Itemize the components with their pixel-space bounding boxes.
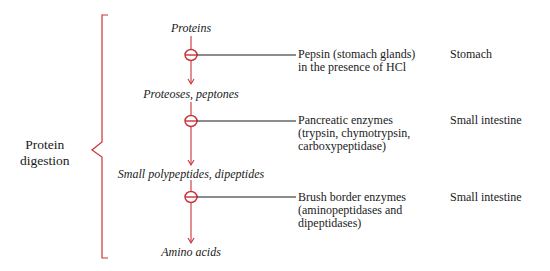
bracket-label-line: Protein bbox=[20, 137, 70, 153]
enzyme-pepsin: Pepsin (stomach glands) in the presence … bbox=[298, 48, 415, 74]
substrate-proteins: Proteins bbox=[171, 22, 211, 35]
enzyme-line: carboxypeptidase) bbox=[298, 140, 410, 153]
flow-arrows bbox=[188, 36, 194, 243]
substrate-proteoses: Proteoses, peptones bbox=[143, 88, 239, 101]
enzyme-line: in the presence of HCl bbox=[298, 61, 415, 74]
enzyme-brush-border: Brush border enzymes (aminopeptidases an… bbox=[298, 191, 406, 230]
substrate-polypeptides: Small polypeptides, dipeptides bbox=[118, 168, 264, 181]
enzyme-line: dipeptidases) bbox=[298, 217, 406, 230]
bracket bbox=[92, 15, 108, 258]
diagram-lines bbox=[0, 0, 550, 271]
substrate-amino-acids: Amino acids bbox=[161, 246, 221, 259]
site-small-intestine-2: Small intestine bbox=[450, 191, 522, 204]
site-small-intestine-1: Small intestine bbox=[450, 114, 522, 127]
site-stomach: Stomach bbox=[450, 48, 492, 61]
bracket-label-line: digestion bbox=[20, 153, 70, 169]
enzyme-pancreatic: Pancreatic enzymes (trypsin, chymotrypsi… bbox=[298, 114, 410, 153]
bracket-label: Protein digestion bbox=[20, 137, 70, 169]
